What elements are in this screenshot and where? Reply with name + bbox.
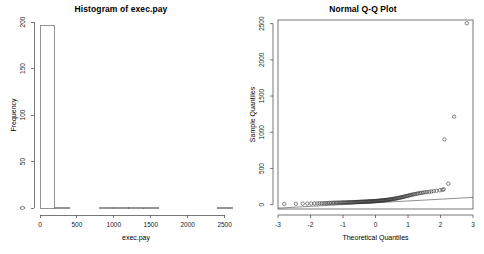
histogram-plot-area: 050100150200Frequency0500100015002000250… bbox=[0, 0, 242, 254]
qqplot-x-tick-label: 0 bbox=[374, 221, 378, 228]
qqplot-point bbox=[301, 202, 304, 205]
qqplot-point bbox=[452, 115, 455, 118]
histogram-bar bbox=[217, 207, 232, 208]
qqplot-x-tick-label: -3 bbox=[275, 221, 281, 228]
qqplot-y-tick-label: 1000 bbox=[258, 125, 265, 140]
qqplot-frame bbox=[278, 20, 473, 209]
qqplot-point bbox=[282, 202, 285, 205]
histogram-x-tick-label: 1000 bbox=[107, 221, 122, 228]
histogram-bar bbox=[40, 26, 55, 208]
histogram-x-tick-label: 500 bbox=[71, 221, 82, 228]
histogram-y-axis-label: Frequency bbox=[10, 98, 18, 132]
qqplot-y-tick-label: 0 bbox=[258, 202, 265, 206]
qqplot-x-tick-label: 2 bbox=[439, 221, 443, 228]
histogram-bar bbox=[129, 207, 144, 208]
qqplot-y-tick-label: 2000 bbox=[258, 52, 265, 67]
histogram-y-tick-label: 150 bbox=[19, 63, 26, 74]
histogram-y-tick-label: 200 bbox=[19, 16, 26, 27]
r-graphics-figure: Histogram of exec.pay 050100150200Freque… bbox=[0, 0, 484, 254]
histogram-bar bbox=[143, 207, 158, 208]
qqplot-y-tick-label: 2500 bbox=[258, 16, 265, 31]
qqplot-y-axis-label: Sample Quantiles bbox=[249, 86, 257, 142]
qqplot-y-tick-label: 500 bbox=[258, 163, 265, 174]
histogram-x-axis-label: exec.pay bbox=[122, 234, 151, 242]
histogram-y-tick-label: 50 bbox=[19, 158, 26, 166]
qqplot-x-tick-label: -1 bbox=[340, 221, 346, 228]
histogram-y-tick-label: 100 bbox=[19, 109, 26, 120]
qqplot-point bbox=[465, 22, 468, 25]
histogram-x-tick-label: 2500 bbox=[217, 221, 232, 228]
qqplot-point bbox=[306, 202, 309, 205]
qqplot-x-axis-label: Theoretical Quantiles bbox=[342, 234, 409, 242]
histogram-y-tick-label: 0 bbox=[19, 206, 26, 210]
qqplot-point bbox=[447, 182, 450, 185]
qqplot-panel: Normal Q-Q Plot 05001000150020002500Samp… bbox=[242, 0, 484, 254]
qqplot-x-tick-label: 3 bbox=[471, 221, 475, 228]
histogram-bar bbox=[99, 207, 114, 208]
histogram-x-tick-label: 1500 bbox=[144, 221, 159, 228]
qqplot-x-tick-label: 1 bbox=[406, 221, 410, 228]
histogram-x-tick-label: 0 bbox=[38, 221, 42, 228]
qqplot-point bbox=[294, 202, 297, 205]
histogram-panel: Histogram of exec.pay 050100150200Freque… bbox=[0, 0, 242, 254]
histogram-bar bbox=[114, 207, 129, 208]
qqplot-plot-area: 05001000150020002500Sample Quantiles-3-2… bbox=[242, 0, 484, 254]
qqplot-point bbox=[309, 202, 312, 205]
qqplot-y-tick-label: 1500 bbox=[258, 88, 265, 103]
qqplot-point bbox=[443, 138, 446, 141]
histogram-bar bbox=[55, 207, 70, 208]
qqplot-x-tick-label: -2 bbox=[308, 221, 314, 228]
histogram-x-tick-label: 2000 bbox=[180, 221, 195, 228]
